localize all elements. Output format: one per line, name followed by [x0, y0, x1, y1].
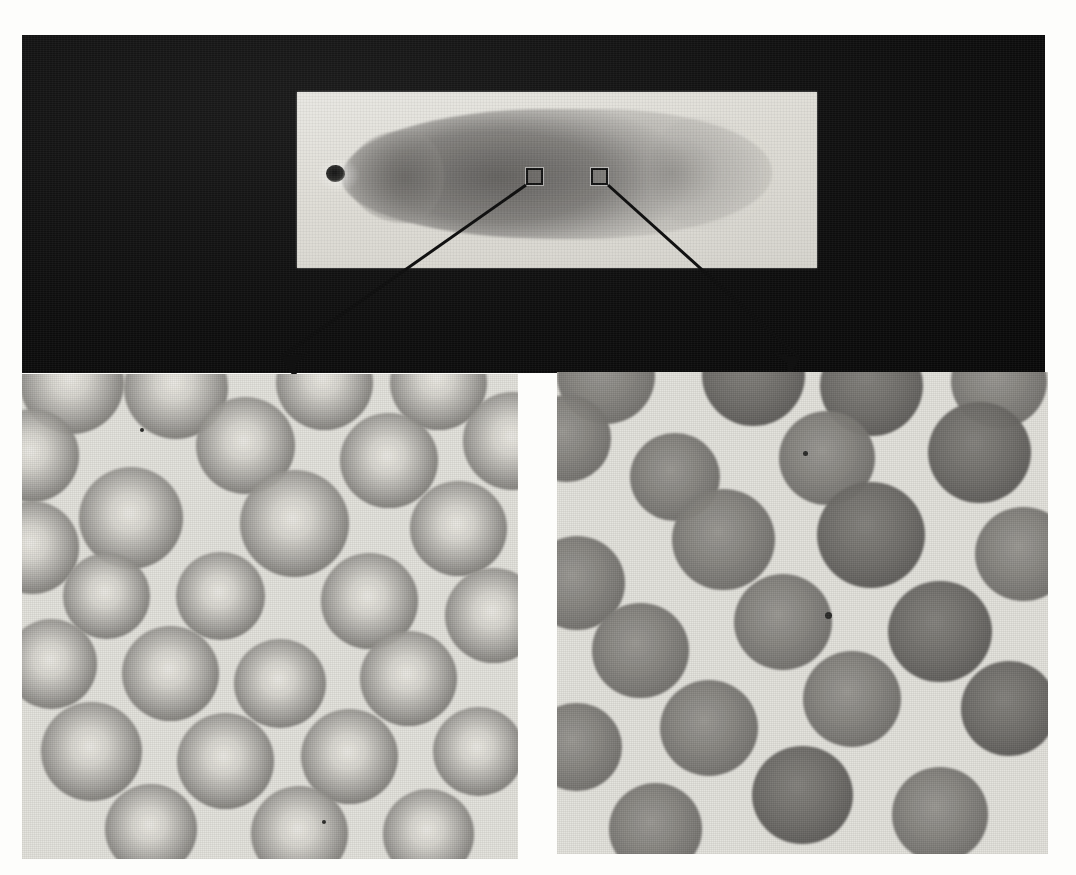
red-blood-cell	[41, 702, 142, 801]
red-blood-cell	[702, 372, 805, 426]
red-blood-cell	[975, 507, 1048, 601]
red-blood-cell	[892, 767, 988, 854]
red-blood-cell	[888, 581, 991, 682]
micrograph-panel-right[interactable]	[557, 372, 1048, 854]
smear-feathered-edge	[648, 117, 778, 229]
red-blood-cell	[177, 713, 274, 808]
smear-head	[348, 131, 444, 223]
red-blood-cell	[609, 783, 702, 854]
red-blood-cell	[672, 489, 775, 590]
red-blood-cell	[803, 651, 901, 747]
red-blood-cell	[360, 631, 457, 726]
red-blood-cell	[240, 470, 349, 577]
red-blood-cell	[234, 639, 325, 728]
smear-artifact-spot	[326, 165, 345, 182]
red-blood-cell	[752, 746, 852, 844]
red-blood-cell	[734, 574, 832, 670]
stain-speck	[825, 612, 832, 619]
stain-speck	[322, 820, 326, 824]
red-blood-cell	[176, 552, 265, 639]
red-blood-cell	[928, 402, 1031, 503]
red-blood-cell	[383, 789, 474, 859]
red-blood-cell	[410, 481, 507, 576]
roi-marker-left[interactable]	[526, 168, 543, 185]
roi-marker-right[interactable]	[591, 168, 608, 185]
dark-field-background	[22, 35, 1045, 373]
micrograph-panel-left[interactable]	[22, 374, 518, 859]
red-blood-cell	[122, 626, 219, 721]
stain-speck	[803, 451, 808, 456]
red-blood-cell	[557, 703, 622, 792]
microscope-slide	[297, 92, 817, 268]
red-blood-cell	[445, 568, 518, 663]
red-blood-cell	[961, 661, 1048, 755]
red-blood-cell	[433, 707, 518, 796]
figure-plate	[0, 0, 1076, 875]
red-blood-cell	[817, 482, 925, 588]
blood-smear	[342, 109, 772, 239]
red-blood-cell	[592, 603, 688, 697]
red-blood-cell	[660, 680, 758, 776]
red-blood-cell	[340, 413, 437, 508]
stain-speck	[140, 428, 144, 432]
red-blood-cell	[105, 784, 196, 859]
